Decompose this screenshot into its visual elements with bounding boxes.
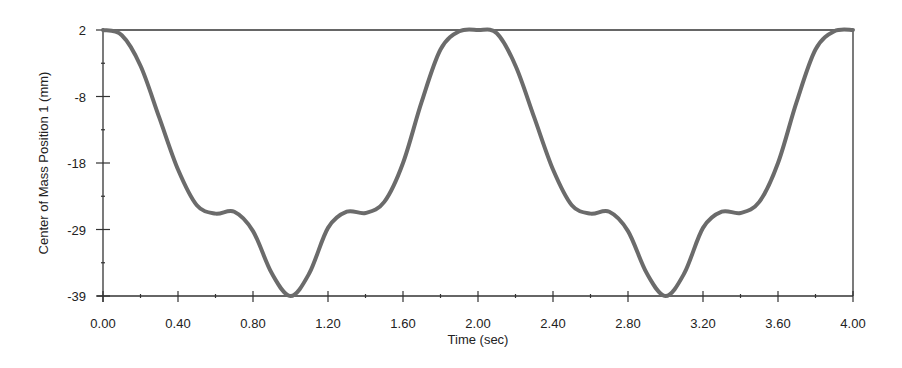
- x-tick-label: 2.80: [615, 316, 640, 331]
- x-axis-title: Time (sec): [448, 332, 509, 347]
- y-axis-title: Center of Mass Position 1 (mm): [36, 72, 51, 255]
- x-tick-label: 3.20: [690, 316, 715, 331]
- x-tick-label: 0.40: [165, 316, 190, 331]
- ticks: [96, 30, 853, 302]
- y-tick-label: -39: [67, 289, 86, 304]
- y-tick-label: -29: [67, 223, 86, 238]
- y-tick-label: 2: [79, 23, 86, 38]
- line-chart: 0.000.400.801.201.602.002.402.803.203.60…: [0, 0, 902, 368]
- x-tick-label: 2.00: [465, 316, 490, 331]
- x-tick-label: 1.60: [390, 316, 415, 331]
- y-tick-label: -18: [67, 156, 86, 171]
- x-tick-label: 0.00: [90, 316, 115, 331]
- x-tick-label: 2.40: [540, 316, 565, 331]
- y-tick-label: -8: [74, 90, 86, 105]
- series-line: [103, 29, 853, 296]
- x-tick-label: 0.80: [240, 316, 265, 331]
- x-tick-label: 3.60: [765, 316, 790, 331]
- axes: [97, 30, 853, 302]
- x-tick-label: 1.20: [315, 316, 340, 331]
- x-tick-label: 4.00: [840, 316, 865, 331]
- x-tick-labels: 0.000.400.801.201.602.002.402.803.203.60…: [90, 316, 865, 331]
- y-tick-labels: 2-8-18-29-39: [67, 23, 86, 304]
